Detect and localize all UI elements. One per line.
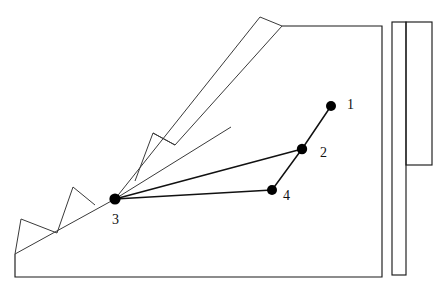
joint-label-2: 2 xyxy=(320,145,327,160)
joint-dot-4 xyxy=(267,185,277,195)
diagram-root: 1 2 3 4 xyxy=(0,0,438,292)
blade-lower-edge xyxy=(115,127,231,199)
tall-vertical-bar xyxy=(392,22,406,275)
linkage-bar-3-4 xyxy=(115,190,272,199)
joint-label-4: 4 xyxy=(283,188,290,203)
blade-left-edge xyxy=(115,17,260,199)
slope-edge-line xyxy=(15,199,115,254)
joint-label-3: 3 xyxy=(112,212,119,227)
blade-tip-edge xyxy=(260,17,282,26)
wide-vertical-bar xyxy=(406,22,432,165)
tooth-1-outline xyxy=(15,219,57,254)
joint-label-1: 1 xyxy=(347,97,354,112)
linkage-bar-1-2 xyxy=(302,106,331,149)
joint-dot-2 xyxy=(297,144,307,154)
joint-dot-3 xyxy=(109,193,120,204)
tooth-2-outline xyxy=(57,187,95,233)
kinematic-diagram-canvas: 1 2 3 4 xyxy=(0,0,438,292)
joint-dot-1 xyxy=(326,101,336,111)
